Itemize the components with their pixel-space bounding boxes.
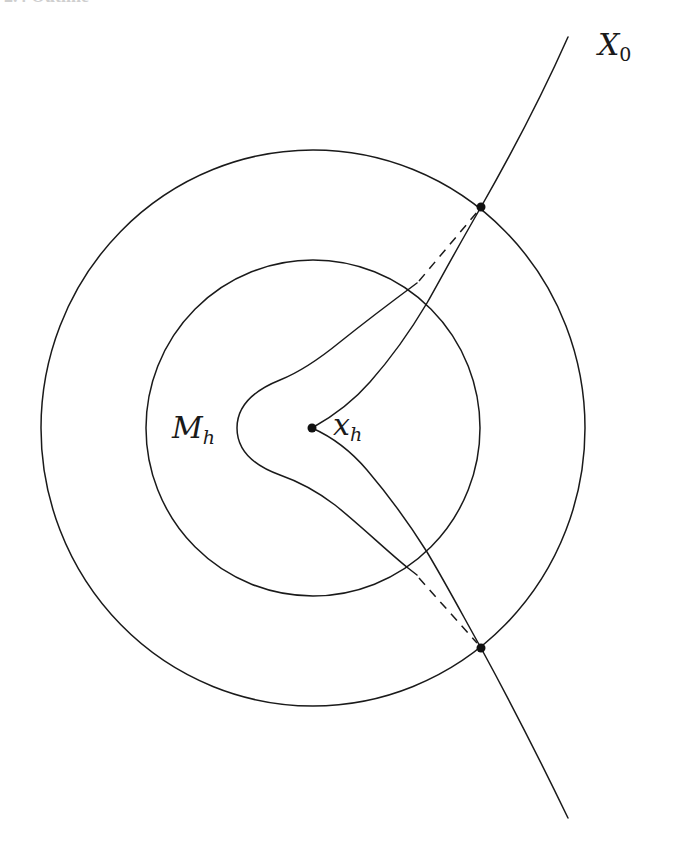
label-xh-base: x xyxy=(333,407,350,442)
manifold-boundary-curve xyxy=(237,283,417,575)
upper-intersection-point xyxy=(477,203,486,212)
label-x0-sub: 0 xyxy=(619,43,631,65)
label-mh-base: M xyxy=(172,410,203,445)
center-point-marker xyxy=(308,424,317,433)
dashed-extension-upper xyxy=(419,211,478,281)
curve-x0-upper-branch xyxy=(312,37,568,428)
label-manifold-mh: Mh xyxy=(172,413,215,447)
lower-intersection-point xyxy=(477,644,486,653)
label-center-xh: xh xyxy=(333,410,362,444)
label-x0: X0 xyxy=(598,30,631,64)
label-xh-sub: h xyxy=(350,423,362,445)
label-mh-sub: h xyxy=(203,426,215,448)
curve-x0-lower-branch xyxy=(312,428,568,818)
label-x0-base: X xyxy=(598,27,619,62)
